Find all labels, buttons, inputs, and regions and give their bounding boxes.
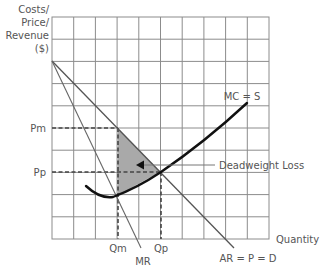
y-axis-label-4: ($) bbox=[35, 43, 49, 54]
dwl-label: Deadweight Loss bbox=[219, 160, 304, 171]
dashed-guides bbox=[52, 128, 161, 239]
pm-label: Pm bbox=[30, 123, 46, 134]
mc-label: MC = S bbox=[224, 91, 261, 102]
x-axis-label: Quantity bbox=[276, 234, 319, 245]
economics-chart: Costs/ Price/ Revenue ($) Pm Pp Qm Qp MR… bbox=[0, 0, 323, 273]
y-axis-label-2: Price/ bbox=[21, 17, 49, 28]
qm-label: Qm bbox=[109, 243, 127, 254]
qp-label: Qp bbox=[154, 243, 168, 254]
pp-label: Pp bbox=[34, 167, 46, 178]
y-axis-label-1: Costs/ bbox=[18, 4, 49, 15]
demand-line bbox=[52, 61, 234, 248]
ar-label: AR = P = D bbox=[220, 253, 277, 264]
y-axis-label-3: Revenue bbox=[5, 30, 49, 41]
mr-label: MR bbox=[135, 256, 151, 267]
